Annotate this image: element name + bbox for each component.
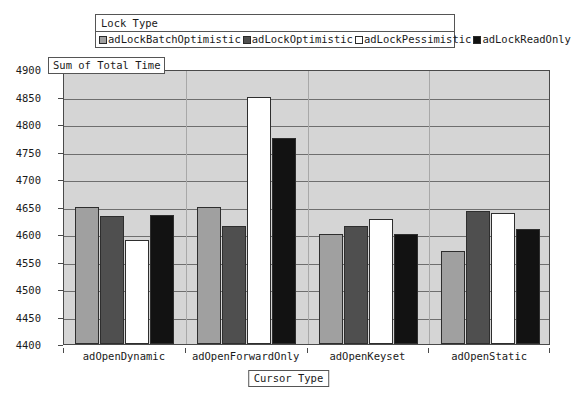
y-tick-label: 4850 xyxy=(1,92,41,104)
bar[interactable] xyxy=(75,207,99,345)
bar[interactable] xyxy=(150,215,174,344)
plot-area xyxy=(63,70,550,345)
legend-swatch-icon xyxy=(473,36,481,44)
bars-container xyxy=(64,71,549,344)
bar[interactable] xyxy=(319,234,343,344)
bar[interactable] xyxy=(125,240,149,345)
legend-item-label: adLockBatchOptimistic xyxy=(108,34,241,45)
x-tick-mark xyxy=(549,348,550,353)
bar-group xyxy=(186,71,308,344)
bar[interactable] xyxy=(516,229,540,344)
bar[interactable] xyxy=(491,213,515,344)
y-tick-label: 4900 xyxy=(1,64,41,76)
y-tick-label: 4550 xyxy=(1,257,41,269)
bar[interactable] xyxy=(394,234,418,344)
legend-item: adLockReadOnly xyxy=(473,34,571,45)
legend-item: adLockPessimistic xyxy=(355,34,471,45)
x-tick-mark xyxy=(428,348,429,353)
bar[interactable] xyxy=(222,226,246,344)
y-tick-label: 4650 xyxy=(1,202,41,214)
legend-item-label: adLockReadOnly xyxy=(482,34,571,45)
legend-item-label: adLockOptimistic xyxy=(252,34,353,45)
bar[interactable] xyxy=(100,216,124,344)
x-tick-mark xyxy=(307,348,308,353)
bar[interactable] xyxy=(466,211,490,344)
legend-item: adLockBatchOptimistic xyxy=(99,34,241,45)
x-tick-mark xyxy=(185,348,186,353)
bar[interactable] xyxy=(344,226,368,344)
x-axis-title: Cursor Type xyxy=(248,370,330,387)
bar[interactable] xyxy=(272,138,296,344)
legend: Lock Type adLockBatchOptimisticadLockOpt… xyxy=(95,14,455,48)
legend-item-label: adLockPessimistic xyxy=(364,34,471,45)
bar-group xyxy=(308,71,430,344)
y-tick-label: 4450 xyxy=(1,312,41,324)
y-tick-label: 4400 xyxy=(1,339,41,351)
legend-items: adLockBatchOptimisticadLockOptimisticadL… xyxy=(96,32,454,47)
x-tick-label: adOpenKeyset xyxy=(329,350,405,362)
y-axis-title: Sum of Total Time xyxy=(48,57,165,74)
legend-swatch-icon xyxy=(99,36,107,44)
bar-group xyxy=(64,71,186,344)
x-tick-label: adOpenForwardOnly xyxy=(192,350,299,362)
bar[interactable] xyxy=(247,97,271,345)
legend-swatch-icon xyxy=(243,36,251,44)
y-tick-label: 4500 xyxy=(1,284,41,296)
x-tick-label: adOpenStatic xyxy=(451,350,527,362)
bar-group xyxy=(429,71,551,344)
y-tick-label: 4600 xyxy=(1,229,41,241)
y-tick-label: 4700 xyxy=(1,174,41,186)
legend-swatch-icon xyxy=(355,36,363,44)
y-tick-mark xyxy=(58,345,63,346)
bar[interactable] xyxy=(197,207,221,345)
x-tick-label: adOpenDynamic xyxy=(83,350,165,362)
y-tick-label: 4750 xyxy=(1,147,41,159)
legend-title: Lock Type xyxy=(96,15,454,32)
x-tick-mark xyxy=(63,348,64,353)
bar[interactable] xyxy=(369,219,393,344)
bar[interactable] xyxy=(441,251,465,345)
x-axis-ticks: adOpenDynamicadOpenForwardOnlyadOpenKeys… xyxy=(63,348,550,364)
legend-item: adLockOptimistic xyxy=(243,34,353,45)
y-tick-label: 4800 xyxy=(1,119,41,131)
